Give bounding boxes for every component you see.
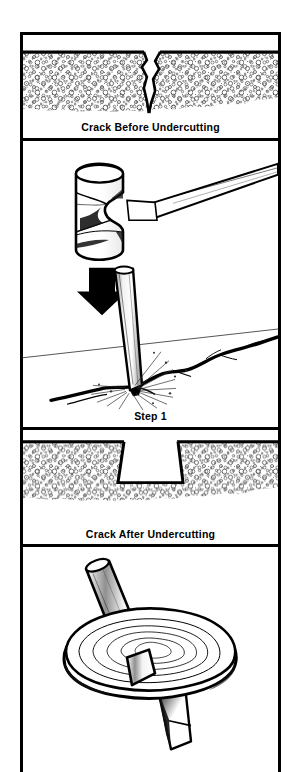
sledge-hammer-art (76, 164, 278, 260)
figure-frame: Crack Before Undercutting (20, 32, 281, 772)
pavement-crack-art (51, 337, 278, 404)
caption-crack-after: Crack After Undercutting (23, 528, 278, 540)
cold-chisel-art (115, 267, 142, 397)
panel-crack-after: Crack After Undercutting (23, 427, 278, 544)
crack-after-artwork (23, 430, 278, 544)
caption-step-1: Step 1 (23, 410, 278, 422)
caption-crack-before: Crack Before Undercutting (23, 121, 278, 133)
panel-step-1: Step 1 (23, 138, 278, 427)
panel-grinding-wheel (23, 544, 278, 772)
step-1-artwork (23, 141, 278, 427)
grinding-wheel-artwork (23, 547, 278, 772)
panel-crack-before: Crack Before Undercutting (23, 35, 278, 138)
